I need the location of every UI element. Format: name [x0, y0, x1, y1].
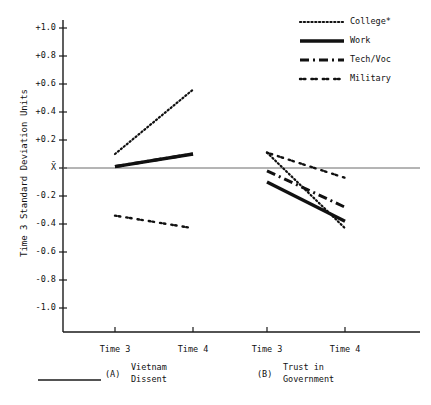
legend-label-work: Work — [350, 35, 370, 45]
y-tick-label-0: +1.0 — [12, 22, 56, 32]
y-tick-label-2: +0.6 — [12, 78, 56, 88]
y-tick-label-4: +0.2 — [12, 134, 56, 144]
x-tick-label-panelB-t3: Time 3 — [241, 344, 293, 354]
panel-caption-line1-B: Trust in — [283, 362, 324, 372]
legend-label-military: Military — [350, 73, 391, 83]
y-tick-label-6: -0.2 — [12, 190, 56, 200]
y-tick-label-8: -0.6 — [12, 246, 56, 256]
panel-caption-line2-B: Government — [283, 374, 334, 384]
legend-line-samples — [300, 22, 344, 79]
axes-group — [59, 20, 420, 332]
series-group — [115, 90, 345, 229]
panel-key-B: (B) — [257, 369, 272, 379]
figure-container: Time 3 Standard Deviation Units +1.0+0.8… — [0, 0, 431, 405]
x-tick-label-panelB-t4: Time 4 — [319, 344, 371, 354]
series-line-military-panelB — [267, 153, 345, 178]
panel-caption-line1-A: Vietnam — [131, 362, 167, 372]
x-tick-label-panelA-t3: Time 3 — [89, 344, 141, 354]
y-tick-label-9: -0.8 — [12, 274, 56, 284]
x-tick-label-panelA-t4: Time 4 — [167, 344, 219, 354]
series-line-college-panelA — [115, 90, 193, 154]
legend-label-techvoc: Tech/Voc — [350, 54, 391, 64]
y-tick-label-3: +0.4 — [12, 106, 56, 116]
panel-caption-line2-A: Dissent — [131, 374, 167, 384]
y-tick-label-7: -0.4 — [12, 218, 56, 228]
y-tick-label-1: +0.8 — [12, 50, 56, 60]
y-tick-label-5: X̄ — [12, 162, 56, 172]
panel-key-A: (A) — [105, 369, 120, 379]
legend-label-college: College* — [350, 16, 391, 26]
series-line-military-panelA — [115, 216, 193, 229]
y-tick-label-10: -1.0 — [12, 302, 56, 312]
